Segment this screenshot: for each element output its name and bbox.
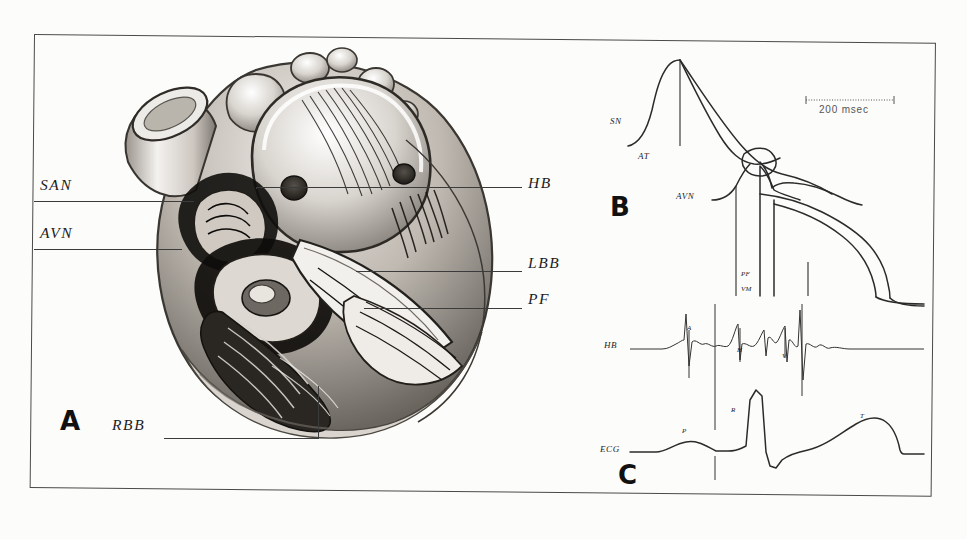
label-avn: AVN: [40, 224, 73, 242]
label-h-deflection: H: [737, 346, 742, 354]
figure-root: A SAN AVN RBB HB LBB PF: [0, 0, 967, 539]
label-t-wave: T: [860, 412, 864, 420]
action-potential-tracings: [594, 34, 934, 324]
trace-vm-plateau: [774, 204, 876, 297]
trace-purkinje-upstroke: [760, 166, 800, 296]
panel-bc: 200 msec B SN AT AVN PF VM HB A H V ECG …: [594, 34, 934, 486]
panel-a: A SAN AVN RBB HB LBB PF: [34, 34, 594, 486]
scale-bar: [806, 96, 894, 104]
label-r-wave: R: [731, 406, 736, 414]
label-a-deflection: A: [687, 324, 692, 332]
scale-bar-label: 200 msec: [819, 104, 869, 115]
trace-vm-tail: [876, 297, 924, 304]
label-p-wave: P: [682, 427, 687, 435]
trace-atrial-decay: [680, 60, 832, 194]
leader-line-hb: [256, 187, 522, 188]
trace-ecg: [630, 390, 924, 468]
label-avn-b: AVN: [676, 191, 694, 201]
electrogram-tracings: [594, 304, 934, 486]
leader-line-san: [34, 201, 194, 202]
label-rbb: RBB: [112, 416, 145, 434]
panel-a-letter: A: [60, 406, 80, 436]
label-san: SAN: [40, 176, 72, 194]
leader-line-rbb-vertical: [318, 386, 319, 439]
heart-anatomy-illustration: [104, 44, 534, 444]
label-hb: HB: [528, 174, 552, 192]
label-at: AT: [638, 151, 649, 161]
label-sn: SN: [610, 116, 622, 126]
label-lbb: LBB: [528, 254, 560, 272]
leader-line-hb-tick: [256, 187, 257, 189]
label-pf-b: PF: [741, 270, 750, 278]
trace-his-bundle-electrogram: [630, 310, 924, 380]
leader-line-pf: [364, 308, 522, 309]
trace-purkinje-repol: [760, 194, 890, 298]
panel-b-letter: B: [610, 192, 630, 222]
trace-sinus-node: [628, 60, 680, 146]
label-ecg-trace: ECG: [600, 444, 620, 454]
label-hb-trace: HB: [604, 340, 617, 350]
label-vm-b: VM: [741, 285, 752, 293]
leader-line-lbb: [356, 271, 522, 272]
label-pf: PF: [528, 290, 550, 308]
panel-c-letter: C: [618, 460, 637, 490]
atrial-dome: [252, 77, 430, 252]
leader-line-rbb-horizontal: [164, 438, 318, 439]
leader-line-avn: [34, 249, 182, 250]
label-v-deflection: V: [782, 352, 787, 360]
